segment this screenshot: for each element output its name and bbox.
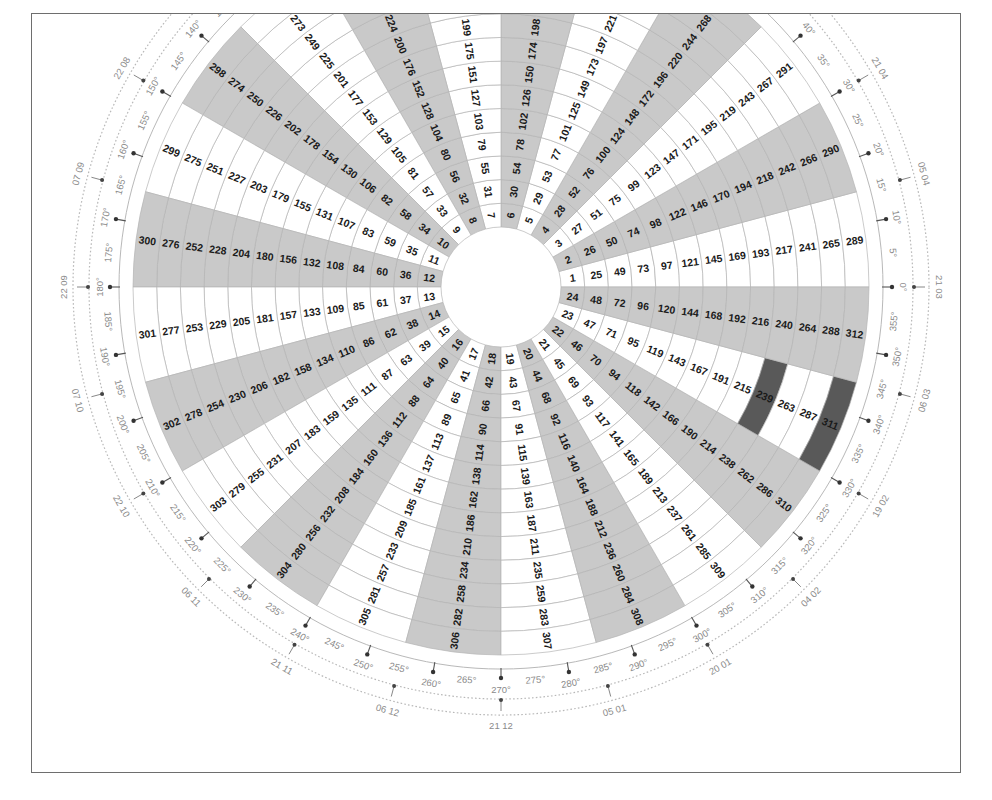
degree-tick-label: 330° — [839, 477, 858, 500]
cell-value-label: 157 — [279, 308, 298, 322]
degree-tick-label: 350° — [890, 346, 904, 367]
cell-value-label: 162 — [466, 490, 480, 509]
degree-tick-label: 275° — [525, 673, 546, 686]
chart-board: 1254973971211451691932172412652892265074… — [31, 13, 961, 773]
degree-tick-label: 15° — [874, 177, 888, 194]
outer-annotation-dot — [606, 684, 610, 688]
degree-tick-label: 260° — [421, 676, 442, 690]
outer-annotation-label: 07 10 — [70, 387, 87, 413]
cell-value-label: 192 — [728, 311, 747, 325]
cell-value-label: 31 — [482, 185, 495, 198]
outer-annotation-dot — [293, 643, 297, 647]
outer-annotation-label: 06 12 — [375, 702, 401, 719]
cell-value-label: 48 — [590, 293, 603, 306]
outer-annotation-dot — [499, 698, 503, 702]
cell-value-label: 156 — [279, 252, 298, 266]
cell-value-label: 132 — [302, 255, 321, 269]
degree-tick-dot — [884, 217, 888, 221]
cell-value-label: 109 — [326, 302, 345, 316]
cell-value-label: 24 — [566, 290, 579, 303]
cell-value-label: 181 — [255, 311, 274, 325]
cell-value-label: 217 — [775, 243, 794, 257]
cell-value-label: 90 — [476, 422, 489, 435]
cell-value-label: 259 — [534, 584, 548, 603]
degree-tick-label: 145° — [168, 50, 188, 73]
degree-tick-dot — [750, 584, 754, 588]
cell-value-label: 78 — [513, 138, 526, 151]
degree-tick-dot — [499, 676, 503, 680]
degree-tick-label: 155° — [135, 109, 153, 132]
cell-value-label: 234 — [457, 560, 471, 579]
cell-value-label: 180 — [255, 249, 274, 263]
outer-annotation-dot — [141, 492, 145, 496]
degree-tick-dot — [837, 89, 841, 93]
cell-value-label: 73 — [637, 262, 650, 275]
cell-value-label: 193 — [751, 246, 770, 260]
cell-value-label: 288 — [822, 323, 841, 337]
cell-value-label: 72 — [613, 296, 626, 309]
cell-value-label: 205 — [232, 314, 251, 328]
degree-tick-label: 280° — [560, 676, 581, 690]
cell-value-label: 168 — [704, 308, 723, 322]
degree-tick-dot — [431, 670, 435, 674]
outer-annotation-dot — [100, 178, 104, 182]
cell-value-label: 199 — [460, 18, 474, 37]
cell-value-label: 43 — [507, 376, 520, 389]
degree-tick-label: 35° — [815, 52, 832, 70]
cell-value-label: 283 — [537, 608, 551, 627]
degree-tick-label: 190° — [98, 346, 112, 367]
degree-tick-dot — [199, 33, 203, 37]
degree-tick-label: 170° — [98, 206, 112, 227]
cell-value-label: 258 — [454, 584, 468, 603]
degree-tick-label: 135° — [212, 14, 234, 19]
degree-tick-label: 10° — [890, 209, 903, 225]
outer-annotation-dot — [898, 392, 902, 396]
degree-tick-dot — [866, 419, 870, 423]
degree-tick-dot — [798, 536, 802, 540]
cell-value-label: 174 — [525, 41, 539, 60]
degree-tick-label: 205° — [135, 442, 153, 465]
degree-tick-label: 345° — [874, 378, 890, 400]
outer-annotation-label: 05 01 — [601, 702, 627, 719]
cell-value-label: 241 — [798, 240, 817, 254]
outer-annotation-dot — [791, 577, 795, 581]
cell-value-label: 276 — [161, 236, 180, 250]
cell-value-label: 282 — [450, 607, 464, 626]
cell-value-label: 12 — [423, 271, 436, 284]
cell-value-label: 42 — [482, 375, 495, 388]
cell-value-label: 144 — [681, 305, 700, 319]
outer-annotation-dot — [706, 643, 710, 647]
degree-tick-dot — [365, 652, 369, 656]
degree-tick-label: 265° — [456, 673, 477, 686]
outer-annotation-dot — [86, 285, 90, 289]
cell-value-label: 19 — [504, 352, 517, 365]
degree-tick-label: 235° — [264, 600, 287, 620]
cell-value-label: 97 — [660, 258, 673, 271]
degree-tick-dot — [866, 151, 870, 155]
degree-tick-label: 160° — [115, 138, 132, 160]
cell-value-label: 169 — [728, 249, 747, 263]
cell-value-label: 127 — [469, 88, 483, 107]
cell-value-label: 216 — [751, 314, 770, 328]
cell-value-label: 175 — [463, 41, 477, 60]
degree-tick-label: 215° — [168, 502, 188, 525]
outer-annotation-dot — [898, 178, 902, 182]
degree-tick-label: 250° — [352, 656, 374, 673]
outer-annotation-label: 21 11 — [269, 656, 294, 677]
degree-tick-dot — [131, 419, 135, 423]
cell-value-label: 121 — [681, 255, 700, 269]
outer-annotation-label: 22 08 — [111, 55, 132, 81]
cell-value-label: 312 — [845, 326, 864, 340]
cell-value-label: 306 — [447, 631, 461, 650]
cells-layer — [133, 14, 869, 655]
cell-value-label: 108 — [326, 258, 345, 272]
cell-value-label: 13 — [423, 290, 436, 303]
degree-tick-label: 175° — [102, 242, 115, 263]
degree-tick-label: 5° — [888, 248, 900, 258]
outer-annotation-label: 21 04 — [870, 55, 891, 81]
outer-annotation-label: 21 12 — [489, 720, 513, 731]
outer-annotation-dot — [141, 79, 145, 83]
degree-tick-dot — [890, 285, 894, 289]
radial-sector-chart[interactable]: 1254973971211451691932172412652892265074… — [32, 14, 960, 772]
outer-annotation-label: 07 09 — [70, 161, 87, 187]
